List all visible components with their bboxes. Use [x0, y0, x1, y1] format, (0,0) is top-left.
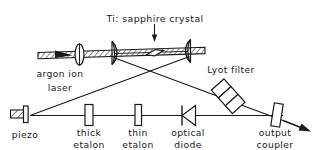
thin-etalon-icon — [135, 105, 142, 126]
thin-etalon-label-line1: thin — [128, 127, 147, 138]
focusing-lens-icon — [75, 43, 84, 65]
lyot-filter-icon — [211, 79, 245, 114]
thick-etalon-label-line1: thick — [77, 127, 102, 138]
crystal-pointer-arrow — [152, 24, 157, 42]
crystal-label: Ti: sapphire crystal — [105, 13, 203, 24]
thick-etalon-label-line2: etalon — [73, 139, 104, 150]
optical-diode-label-line1: optical — [171, 127, 205, 138]
piezo-label: piezo — [12, 129, 38, 140]
pump-label-line2: laser — [48, 82, 72, 93]
thick-etalon-icon — [85, 105, 93, 126]
output-coupler-icon — [271, 103, 283, 127]
optical-diode-label-line2: diode — [174, 139, 202, 150]
optical-diode-icon — [182, 106, 196, 126]
pump-label-line1: argon ion — [36, 68, 83, 79]
output-coupler-label-line2: coupler — [256, 139, 293, 150]
piezo-mirror-icon — [11, 106, 29, 123]
lyot-filter-label: Lyot filter — [207, 64, 255, 75]
laser-cavity-drawing: Ti: sapphire crystal argon ion laser Lyo… — [0, 0, 318, 150]
thin-etalon-label-line2: etalon — [122, 139, 153, 150]
optical-schematic-figure: Ti: sapphire crystal argon ion laser Lyo… — [0, 0, 318, 150]
output-coupler-label-line1: output — [259, 127, 292, 138]
